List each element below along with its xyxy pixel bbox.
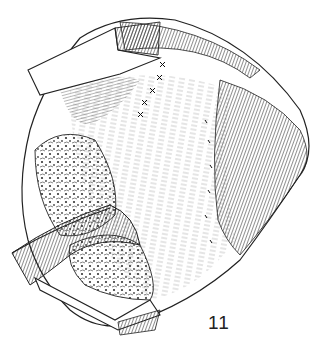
illustration-drawing: [0, 0, 327, 351]
figure-number: 11: [208, 312, 230, 334]
